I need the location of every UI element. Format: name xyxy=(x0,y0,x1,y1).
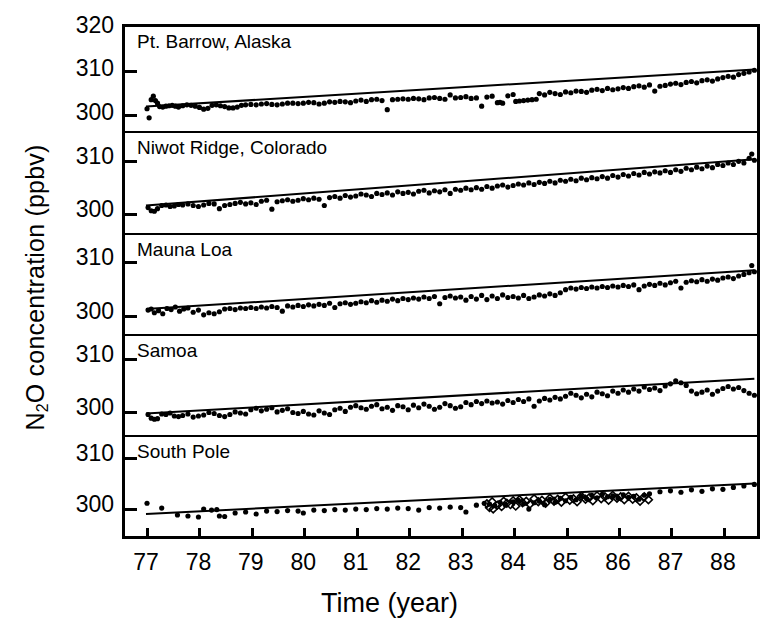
x-axis-tick-label: 77 xyxy=(116,549,176,576)
data-point xyxy=(222,203,227,208)
x-axis-tick-label: 86 xyxy=(588,549,648,576)
data-point xyxy=(155,417,160,422)
x-axis-tick-label: 85 xyxy=(536,549,596,576)
data-point xyxy=(547,291,552,296)
data-point xyxy=(285,303,290,308)
data-point xyxy=(490,401,495,406)
trend-line xyxy=(146,159,754,205)
data-point xyxy=(295,509,300,514)
data-point xyxy=(442,401,447,406)
data-point xyxy=(295,302,300,307)
data-point xyxy=(741,388,746,393)
data-point xyxy=(495,400,500,405)
data-point xyxy=(264,305,269,310)
data-point xyxy=(311,100,316,105)
data-point xyxy=(437,405,442,410)
data-point xyxy=(600,392,605,397)
data-point xyxy=(254,202,259,207)
data-point xyxy=(673,278,678,283)
data-point xyxy=(448,505,453,510)
data-point xyxy=(233,511,238,516)
data-point xyxy=(458,294,463,299)
data-point xyxy=(316,409,321,414)
data-point xyxy=(542,181,547,186)
data-point xyxy=(385,298,390,303)
data-point xyxy=(610,389,615,394)
data-point xyxy=(684,279,689,284)
data-point xyxy=(416,96,421,101)
data-point xyxy=(390,192,395,197)
data-point xyxy=(301,101,306,106)
data-point xyxy=(274,305,279,310)
y-axis-tick-label: 300 xyxy=(50,99,114,126)
data-point xyxy=(652,169,657,174)
data-point xyxy=(558,397,563,402)
panel-niwot-ridge-colorado: Niwot Ridge, Colorado xyxy=(125,131,757,233)
data-point xyxy=(731,162,736,167)
data-point xyxy=(689,488,694,493)
data-point xyxy=(568,285,573,290)
data-point xyxy=(416,406,421,411)
data-point xyxy=(264,198,269,203)
data-point xyxy=(248,200,253,205)
data-point xyxy=(479,401,484,406)
data-point xyxy=(490,293,495,298)
y-axis-tick xyxy=(125,70,137,73)
data-point xyxy=(752,68,757,73)
data-point xyxy=(217,514,222,519)
data-point xyxy=(615,284,620,289)
data-point xyxy=(191,415,196,420)
data-point xyxy=(364,192,369,197)
data-point xyxy=(290,304,295,309)
data-point xyxy=(379,98,384,103)
data-point xyxy=(516,295,521,300)
data-point xyxy=(469,96,474,101)
data-point xyxy=(589,284,594,289)
data-point xyxy=(191,309,196,314)
data-point xyxy=(254,512,259,517)
data-point xyxy=(747,69,752,74)
data-point xyxy=(684,165,689,170)
data-point xyxy=(505,398,510,403)
data-point xyxy=(458,95,463,100)
data-point xyxy=(626,284,631,289)
data-point xyxy=(437,189,442,194)
data-point xyxy=(458,405,463,410)
y-axis-tick-label: 310 xyxy=(50,341,114,368)
data-point xyxy=(484,399,489,404)
data-point xyxy=(600,284,605,289)
data-point xyxy=(442,187,447,192)
data-point xyxy=(301,409,306,414)
data-point xyxy=(594,87,599,92)
data-point xyxy=(421,97,426,102)
data-point xyxy=(353,193,358,198)
data-point xyxy=(663,282,668,287)
data-point xyxy=(505,295,510,300)
x-axis-tick-label: 79 xyxy=(221,549,281,576)
data-point xyxy=(427,404,432,409)
data-point xyxy=(343,409,348,414)
x-axis-tick-label: 83 xyxy=(431,549,491,576)
x-axis-tick xyxy=(408,528,411,539)
trend-line xyxy=(146,379,754,414)
data-point xyxy=(689,278,694,283)
data-point xyxy=(201,312,206,317)
data-point xyxy=(311,413,316,418)
data-point xyxy=(285,101,290,106)
data-point xyxy=(185,514,190,519)
data-point xyxy=(238,305,243,310)
data-point xyxy=(421,188,426,193)
data-point xyxy=(295,411,300,416)
data-point xyxy=(678,82,683,87)
data-point xyxy=(547,90,552,95)
y-axis-tick xyxy=(125,411,137,414)
x-axis-tick-label: 80 xyxy=(273,549,333,576)
y-axis-tick-label: 310 xyxy=(50,143,114,170)
x-axis-tick-label: 82 xyxy=(378,549,438,576)
x-axis-tick-label: 84 xyxy=(483,549,543,576)
data-point xyxy=(406,297,411,302)
data-point xyxy=(720,386,725,391)
data-point xyxy=(458,505,463,510)
data-point xyxy=(526,180,531,185)
data-point xyxy=(332,100,337,105)
